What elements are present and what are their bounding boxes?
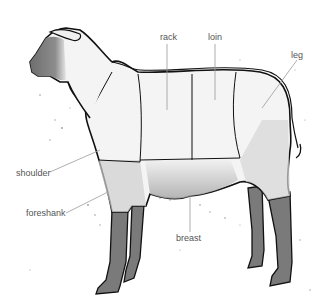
label-foreshank: foreshank <box>26 208 66 218</box>
label-breast: breast <box>176 233 201 243</box>
label-loin: loin <box>208 32 222 42</box>
lamb-cuts-diagram: rack loin leg shoulder foreshank breast <box>0 0 322 306</box>
tail <box>296 144 301 158</box>
label-leg: leg <box>291 50 303 60</box>
label-rack: rack <box>160 32 177 42</box>
label-shoulder: shoulder <box>16 168 51 178</box>
head-face <box>30 37 66 80</box>
lamb-illustration <box>0 0 322 306</box>
shoulder-shade <box>98 160 146 212</box>
belly-shade <box>145 158 238 199</box>
